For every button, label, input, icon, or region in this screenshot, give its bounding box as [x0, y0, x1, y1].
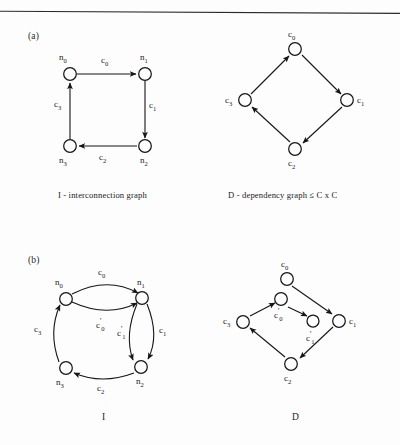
edge-label-b-c1: c1 — [159, 325, 166, 337]
node-label-b-c3: c3 — [223, 316, 230, 328]
node-label-n1: n1 — [140, 52, 148, 64]
node-label-b-c2: c2 — [284, 373, 291, 385]
edge-label-b-c3: c3 — [34, 324, 41, 336]
caption-a-left: I - interconnection graph — [58, 190, 147, 200]
edge-label-c3: c3 — [54, 99, 61, 111]
node-n2 — [139, 140, 152, 153]
node-label-n0: n0 — [59, 52, 67, 64]
caption-b-left: I — [102, 412, 105, 422]
figure-root: (a) (b) n0 n1 n2 n3 c0 c1 c2 c3 c0 c1 c2… — [0, 0, 400, 445]
edge-n0-n1-c0 — [72, 285, 138, 294]
node-label-b-n1: n1 — [137, 277, 145, 289]
node-n0 — [60, 293, 73, 306]
node-label-c1: c1 — [357, 95, 364, 107]
node-label-b-n3: n3 — [56, 377, 64, 389]
edge-c2-c3 — [250, 328, 285, 357]
node-label-c3: c3 — [225, 95, 232, 107]
edge-c1-c2 — [303, 107, 342, 143]
graph-a-dependency — [239, 43, 354, 156]
node-label-b-c0-prime: c'0 — [274, 307, 283, 322]
edge-n1-n2-c1prime — [129, 304, 137, 360]
node-label-b-c1-prime: c'1 — [306, 330, 315, 345]
graph-b-interconnection — [54, 285, 154, 379]
node-n2 — [135, 361, 148, 374]
node-n3 — [64, 140, 77, 153]
edge-c3-c0prime — [250, 303, 275, 316]
node-label-c2: c2 — [288, 158, 295, 170]
edge-c1-c2 — [300, 327, 333, 358]
edge-label-c0: c0 — [101, 55, 108, 67]
node-c2 — [289, 143, 302, 156]
edge-n1-n2-c1 — [147, 304, 154, 359]
edge-c3-c0 — [251, 56, 289, 94]
node-c0 — [289, 43, 302, 56]
edge-label-b-c2: c2 — [97, 383, 104, 395]
node-n3 — [60, 362, 73, 375]
edge-label-c1: c1 — [149, 100, 156, 112]
node-c1-prime — [307, 315, 319, 327]
node-label-b-n0: n0 — [55, 277, 63, 289]
panel-label-a: (a) — [28, 31, 39, 41]
node-c0 — [281, 273, 294, 286]
node-c3 — [239, 94, 252, 107]
node-c1 — [333, 315, 346, 328]
node-n0 — [64, 68, 77, 81]
node-c1 — [341, 94, 354, 107]
edge-n0-n1-c0prime — [72, 302, 137, 310]
panel-label-b: (b) — [28, 255, 40, 265]
edge-n3-n0-c3 — [54, 305, 60, 362]
node-label-n3: n3 — [59, 155, 67, 167]
edge-n2-n3-c2 — [74, 373, 134, 379]
edge-c2-c3 — [252, 107, 290, 142]
node-label-b-c0: c0 — [281, 259, 288, 271]
caption-a-right: D - dependency graph ≤ C x C — [228, 190, 337, 200]
edge-c0prime-c1prime — [288, 307, 307, 316]
node-c3 — [237, 316, 250, 329]
edge-label-b-c1-prime: c'1 — [117, 325, 126, 340]
horizontal-rule — [0, 11, 400, 13]
edge-label-c2: c2 — [99, 152, 106, 164]
edge-label-b-c0-prime: c'0 — [96, 317, 105, 332]
edge-c0-c1 — [302, 55, 341, 94]
caption-b-right: D — [292, 412, 299, 422]
edge-label-b-c0: c0 — [98, 267, 105, 279]
edge-c0-c1 — [292, 286, 332, 314]
node-label-b-c1: c1 — [349, 316, 356, 328]
graph-a-interconnection — [64, 68, 152, 153]
graph-b-dependency — [237, 273, 346, 371]
node-label-c0: c0 — [288, 29, 295, 41]
node-n1 — [136, 292, 149, 305]
node-n1 — [139, 68, 152, 81]
node-label-b-n2: n2 — [136, 376, 144, 388]
node-c0-prime — [275, 293, 288, 306]
node-c2 — [285, 358, 298, 371]
node-label-n2: n2 — [140, 155, 148, 167]
